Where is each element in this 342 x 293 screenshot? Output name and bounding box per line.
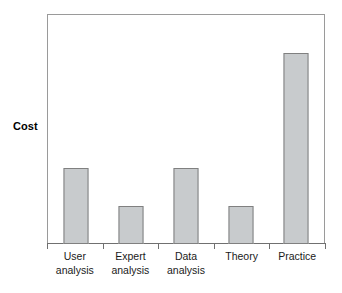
x-axis-tick xyxy=(47,244,48,249)
x-axis-label: Expertanalysis xyxy=(103,250,159,277)
x-axis-tick xyxy=(158,244,159,249)
x-axis-label: Theory xyxy=(214,250,270,264)
bars-container xyxy=(48,15,324,244)
bar-slot xyxy=(48,15,103,244)
x-axis-tick xyxy=(325,244,326,249)
x-axis-label-line: Expert xyxy=(103,250,159,264)
x-axis-label: Dataanalysis xyxy=(158,250,214,277)
x-axis-tick xyxy=(269,244,270,249)
bar[interactable] xyxy=(63,168,88,244)
x-axis-label-line: Theory xyxy=(214,250,270,264)
bar[interactable] xyxy=(118,206,143,244)
x-axis-tick xyxy=(214,244,215,249)
bar-slot xyxy=(269,15,324,244)
bar-slot xyxy=(158,15,213,244)
bar[interactable] xyxy=(229,206,254,244)
x-axis-label-line: Data xyxy=(158,250,214,264)
x-axis-label-line: User xyxy=(47,250,103,264)
x-axis-label: Useranalysis xyxy=(47,250,103,277)
bar-slot xyxy=(103,15,158,244)
x-axis-label-line: analysis xyxy=(103,264,159,278)
x-axis-label-line: analysis xyxy=(158,264,214,278)
y-axis-title: Cost xyxy=(13,120,47,133)
x-axis-label-line: Practice xyxy=(269,250,325,264)
x-axis-tick xyxy=(103,244,104,249)
bar[interactable] xyxy=(173,168,198,244)
x-axis-label: Practice xyxy=(269,250,325,264)
bar-chart: Cost UseranalysisExpertanalysisDataanaly… xyxy=(0,0,342,293)
bar[interactable] xyxy=(284,53,309,244)
x-axis-labels: UseranalysisExpertanalysisDataanalysisTh… xyxy=(47,250,325,290)
bar-slot xyxy=(214,15,269,244)
x-axis-label-line: analysis xyxy=(47,264,103,278)
